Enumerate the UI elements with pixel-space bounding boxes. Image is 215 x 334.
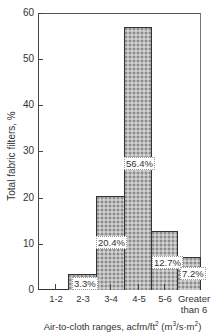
x-tick-4-5 [138,284,139,290]
y-tick-60 [38,13,43,14]
bar-label-3-4: 20.4% [96,236,127,249]
y-tick-10 [38,244,43,245]
y-tick-20 [38,198,43,199]
bar-label-4-5: 56.4% [124,157,155,170]
x-tick-label-3-4: 3-4 [96,293,126,304]
x-tick-5-6 [164,284,165,290]
x-tick-label-greater-than-6-line2: than 6 [174,304,214,315]
y-tick-label-50: 50 [12,54,34,64]
bar-label-greater-than-6: 7.2% [180,267,206,280]
bar-label-5-6: 12.7% [152,256,183,269]
x-tick-1-2 [55,284,56,290]
x-tick-label-greater-than-6-line1: Greater [174,293,214,304]
x-tick-label-2-3: 2-3 [68,293,98,304]
y-tick-label-60: 60 [12,8,34,18]
y-tick-label-20: 20 [12,193,34,203]
x-axis-label: Air-to-cloth ranges, acfm/ft2 (m3/s·m2) [30,318,215,333]
bar-chart: Total fabric filters, % 60 50 40 30 20 1… [0,0,215,334]
y-tick-label-40: 40 [12,100,34,110]
y-tick-40 [38,105,43,106]
x-tick-label-1-2: 1-2 [41,293,71,304]
y-tick-label-10: 10 [12,239,34,249]
y-tick-label-0: 0 [12,285,34,295]
y-tick-30 [38,151,43,152]
y-tick-label-30: 30 [12,146,34,156]
x-tick-3-4 [110,284,111,290]
bar-label-2-3: 3.3% [72,277,98,290]
y-tick-50 [38,59,43,60]
